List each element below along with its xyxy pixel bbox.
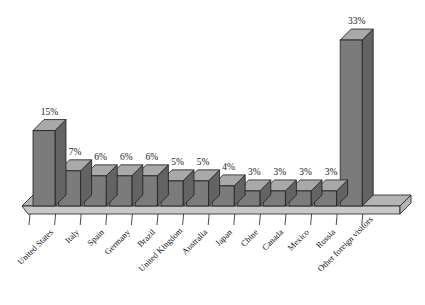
axis-tick [80,214,81,225]
bar-value-label: 7% [61,147,89,157]
bar-value-label: 15% [36,107,64,117]
axis-tick [106,214,107,225]
bar-value-label: 3% [266,167,294,177]
axis-tick [234,214,235,225]
bar-side-face [55,120,66,206]
bar-value-label: 3% [317,167,345,177]
bar-side-face [362,29,373,206]
axis-tick [259,214,260,225]
bar-value-label: 3% [240,167,268,177]
chart-floor-front [22,206,400,214]
bar-value-label: 33% [343,16,371,26]
axis-tick [311,214,312,225]
bar-value-label: 3% [292,167,320,177]
axis-tick [208,214,209,225]
axis-tick [55,214,56,225]
axis-tick [183,214,184,225]
bar-value-label: 4% [215,162,243,172]
axis-tick [29,214,30,225]
bar-value-label: 6% [87,152,115,162]
bar-value-label: 6% [138,152,166,162]
axis-tick [157,214,158,225]
bar-front-face [33,131,55,206]
bar-value-label: 6% [112,152,140,162]
axis-tick [336,214,337,225]
bar-chart: 15%7%6%6%6%5%5%4%3%3%3%3%33% United Stat… [0,0,425,305]
axis-tick [131,214,132,225]
axis-tick [285,214,286,225]
bar-value-label: 5% [189,157,217,167]
bar-value-label: 5% [164,157,192,167]
